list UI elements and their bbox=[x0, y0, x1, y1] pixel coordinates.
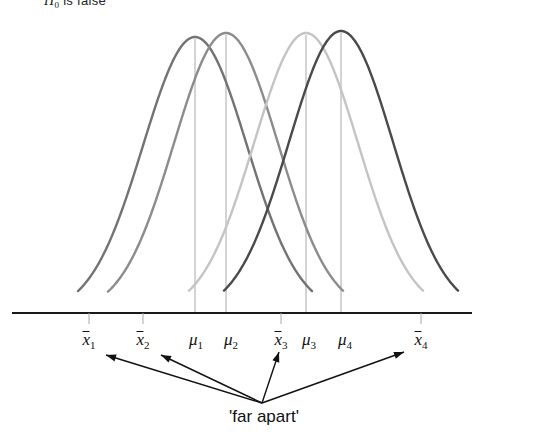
header-suffix: is false bbox=[59, 0, 106, 8]
arrow-to-xbar3-head bbox=[272, 352, 279, 363]
axis-label-mu4: μ4 bbox=[338, 330, 352, 351]
arrow-to-xbar1 bbox=[106, 355, 262, 404]
arrow-to-xbar2-shaft bbox=[161, 355, 262, 403]
arrow-to-xbar2 bbox=[161, 355, 262, 403]
axis-label-xbar3: x3 bbox=[274, 330, 287, 351]
figure-container: H0 is false x1x2μ1μ2x3μ3μ4x4 'far apart' bbox=[0, 0, 533, 435]
arrow-group bbox=[106, 352, 404, 403]
axis-label-mu2-subscript: 2 bbox=[233, 339, 239, 351]
axis-label-xbar1-subscript: 1 bbox=[90, 339, 96, 351]
figure-header: H0 is false bbox=[44, 0, 106, 10]
header-h-symbol: H bbox=[44, 0, 54, 8]
axis-label-xbar1-base: x bbox=[82, 330, 90, 349]
axis-label-mu3-base: μ bbox=[302, 330, 311, 349]
axis-label-xbar2-subscript: 2 bbox=[144, 339, 150, 351]
arrow-to-xbar1-shaft bbox=[106, 355, 262, 403]
axis-label-xbar4-base: x bbox=[414, 330, 422, 349]
arrow-to-xbar4-shaft bbox=[262, 352, 404, 403]
axis-label-xbar1: x1 bbox=[82, 330, 95, 351]
far-apart-annotation: 'far apart' bbox=[229, 407, 299, 427]
axis-label-xbar3-subscript: 3 bbox=[282, 339, 288, 351]
arrow-to-xbar2-head bbox=[161, 355, 172, 363]
arrow-to-xbar1-head bbox=[106, 355, 117, 362]
axis-label-mu3-subscript: 3 bbox=[311, 339, 317, 351]
axis-label-mu2: μ2 bbox=[224, 330, 238, 351]
normal-curves-plot bbox=[0, 0, 533, 435]
axis-label-xbar3-base: x bbox=[274, 330, 282, 349]
axis-label-xbar4: x4 bbox=[414, 330, 427, 351]
axis-label-mu4-base: μ bbox=[338, 330, 347, 349]
curve-group bbox=[78, 31, 458, 292]
axis-label-xbar2-base: x bbox=[136, 330, 144, 349]
axis-label-mu1-base: μ bbox=[189, 330, 198, 349]
axis-label-xbar4-subscript: 4 bbox=[422, 339, 428, 351]
arrow-to-xbar3 bbox=[262, 352, 279, 403]
axis-label-mu1-subscript: 1 bbox=[198, 339, 204, 351]
tick-group bbox=[89, 313, 421, 324]
axis-label-xbar2: x2 bbox=[136, 330, 149, 351]
dropline-group bbox=[195, 33, 341, 313]
axis-label-mu3: μ3 bbox=[302, 330, 316, 351]
axis-label-mu1: μ1 bbox=[189, 330, 203, 351]
arrow-to-xbar4-head bbox=[393, 352, 404, 359]
axis-label-mu2-base: μ bbox=[224, 330, 233, 349]
axis-label-mu4-subscript: 4 bbox=[347, 339, 353, 351]
arrow-to-xbar4 bbox=[262, 352, 404, 403]
